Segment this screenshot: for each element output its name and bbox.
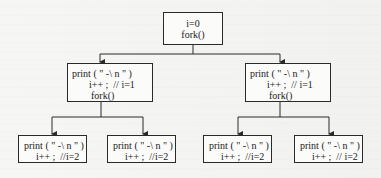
node-line-increment: i++ ; // i=1	[72, 79, 152, 90]
node-line-print: print ( " -\ n " )	[250, 68, 330, 79]
node-line-increment: i++ ; //i=2	[24, 151, 86, 162]
node-level3-2: print ( " -\ n " ) i++ ; //i=2	[107, 135, 176, 163]
node-level3-4: print ( " -\ n " ) i++ ; // i=2	[294, 135, 363, 163]
node-line-increment: i++ ; // i=2	[300, 151, 362, 162]
node-level3-3: print ( " -\ n " ) i++ ; //i=2	[203, 135, 272, 163]
node-line-print: print ( " -\ n " )	[72, 68, 152, 79]
node-level2-left: print ( " -\ n " ) i++ ; // i=1 fork()	[67, 63, 153, 102]
node-line-fork: fork()	[72, 90, 152, 101]
node-line-increment: i++ ; //i=2	[209, 151, 271, 162]
node-level3-1: print ( " -\ n " ) i++ ; //i=2	[18, 135, 87, 163]
node-line-increment: i++ ; // i=1	[250, 79, 330, 90]
node-line-print: print ( " -\ n " )	[209, 140, 271, 151]
node-root-line-2: fork()	[164, 29, 222, 40]
node-line-print: print ( " -\ n " )	[24, 140, 86, 151]
node-root: i=0 fork()	[163, 12, 223, 45]
node-line-print: print ( " -\ n " )	[113, 140, 175, 151]
node-level2-right: print ( " -\ n " ) i++ ; // i=1 fork()	[245, 63, 331, 102]
node-line-fork: fork()	[250, 90, 330, 101]
node-line-increment: i++ ; //i=2	[113, 151, 175, 162]
node-line-print: print ( " -\ n " )	[300, 140, 362, 151]
node-root-line-1: i=0	[164, 18, 222, 29]
